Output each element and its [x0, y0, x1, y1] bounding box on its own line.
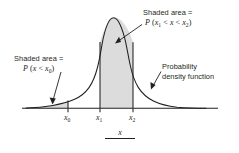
tick-label-x2-sub: 2 [133, 117, 136, 123]
annotation-pdf-line1: Probability [162, 62, 197, 71]
formula-p: P [145, 18, 150, 27]
annotation-central-band: Shaded area = P (x1 < x < x2) [143, 8, 192, 28]
annotation-central-band-line1: Shaded area = [143, 8, 192, 17]
leader-arrow-pdf [150, 72, 161, 90]
annotation-pdf: Probability density function [162, 62, 214, 81]
formula-op-lt-2: < [176, 18, 181, 27]
formula-sub-1: 1 [158, 22, 161, 28]
formula-tail-op-lt: < [38, 64, 43, 73]
axis-tick-label-x1: x1 [96, 113, 102, 122]
formula-close-paren: ) [189, 18, 192, 27]
probability-density-figure: Shaded area = P (x1 < x < x2) Shaded are… [0, 0, 239, 153]
formula-op-lt-1: < [163, 18, 168, 27]
annotation-left-tail: Shaded area = P (x < x0) [14, 54, 63, 74]
annotation-central-band-formula: P (x1 < x < x2) [145, 18, 192, 28]
formula-sub-2: 2 [186, 22, 189, 28]
tick-label-x1-sub: 1 [100, 117, 103, 123]
x-axis-caption-var: x [104, 128, 136, 137]
leader-arrow-left-tail [50, 72, 61, 105]
formula-tail-sub-0: 0 [49, 68, 52, 74]
formula-tail-p: P [23, 64, 28, 73]
x-axis-caption-rule [105, 138, 135, 139]
annotation-left-tail-formula: P (x < x0) [14, 64, 63, 74]
x-axis-caption: x [104, 128, 136, 139]
formula-var-x: x [170, 18, 174, 27]
axis-tick-label-x2: x2 [129, 113, 135, 122]
axis-tick-label-x0: x0 [64, 113, 70, 122]
annotation-pdf-line2: density function [162, 72, 214, 81]
formula-tail-var-x: x [33, 64, 37, 73]
tick-label-x0-sub: 0 [68, 117, 71, 123]
annotation-left-tail-line1: Shaded area = [14, 54, 63, 63]
